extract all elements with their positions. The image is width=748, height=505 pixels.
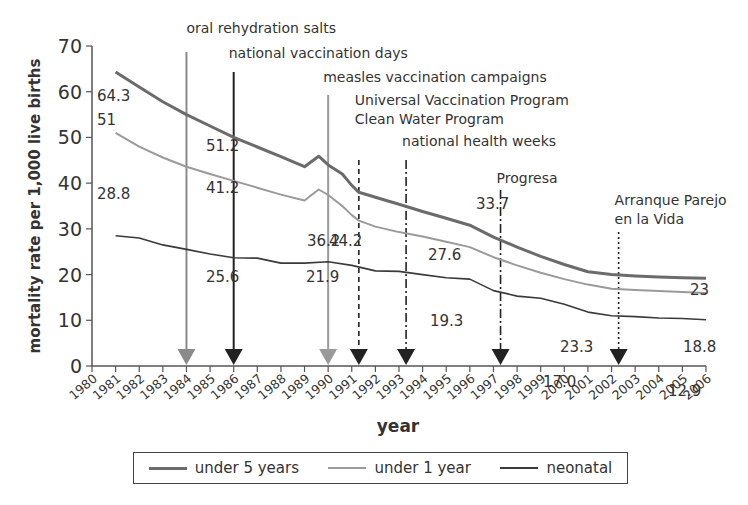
- x-axis-title: year: [377, 416, 420, 436]
- legend-swatch-under5: [149, 467, 187, 470]
- legend-label-neonatal: neonatal: [546, 459, 612, 477]
- y-tick-label: 40: [58, 172, 82, 194]
- y-tick-label: 10: [58, 309, 82, 331]
- y-axis-title: mortality rate per 1,000 live births: [26, 58, 44, 353]
- data-label: 23: [690, 281, 709, 299]
- data-label: 18.8: [683, 338, 716, 356]
- chart-plot-area: 0102030405060701980198119821983198419851…: [0, 0, 748, 505]
- y-tick-label: 20: [58, 264, 82, 286]
- data-label: 51: [97, 111, 116, 129]
- y-axis-label: mortality rate per 1,000 live births: [26, 58, 44, 353]
- annotation-label: Arranque Parejo: [615, 192, 727, 208]
- legend-item-under5: under 5 years: [149, 459, 299, 477]
- data-label: 64.3: [97, 87, 130, 105]
- annotation-label: national vaccination days: [229, 45, 408, 61]
- data-label: 27.6: [428, 246, 461, 264]
- annotation-label: Universal Vaccination Program: [355, 92, 569, 108]
- legend-swatch-neonatal: [500, 467, 538, 469]
- legend-label-under5: under 5 years: [195, 459, 299, 477]
- arrowhead-icon: [397, 349, 415, 365]
- annotation-label: en la Vida: [615, 211, 684, 227]
- arrowhead-icon: [225, 349, 243, 365]
- legend-swatch-under1: [328, 467, 366, 469]
- series-line-neonatal: [116, 236, 706, 320]
- data-label: 28.8: [97, 185, 130, 203]
- data-label: 23.3: [560, 338, 593, 356]
- data-label: 19.3: [430, 312, 463, 330]
- data-label: 41.2: [206, 179, 239, 197]
- data-label: 17.0: [543, 373, 576, 391]
- y-tick-label: 60: [58, 81, 82, 103]
- y-tick-label: 0: [70, 355, 82, 377]
- legend-label-under1: under 1 year: [374, 459, 470, 477]
- arrowhead-icon: [350, 349, 368, 365]
- legend-item-neonatal: neonatal: [500, 459, 612, 477]
- y-tick-label: 70: [58, 35, 82, 57]
- data-label: 36.2: [307, 232, 340, 250]
- annotation-label: oral rehydration salts: [186, 20, 336, 36]
- annotation-label: Progresa: [497, 170, 558, 186]
- annotation-label: Clean Water Program: [355, 111, 504, 127]
- y-tick-label: 50: [58, 126, 82, 148]
- arrowhead-icon: [319, 349, 337, 365]
- annotation-label: national health weeks: [402, 133, 556, 149]
- data-label: 33.7: [476, 195, 509, 213]
- data-label: 51.2: [206, 137, 239, 155]
- data-label: 21.9: [306, 268, 339, 286]
- data-label: 25.6: [206, 268, 239, 286]
- y-tick-label: 30: [58, 218, 82, 240]
- arrowhead-icon: [610, 349, 628, 365]
- data-label: 12.9: [668, 382, 701, 400]
- arrowhead-icon: [492, 349, 510, 365]
- legend: under 5 years under 1 year neonatal: [133, 452, 628, 484]
- legend-item-under1: under 1 year: [328, 459, 470, 477]
- arrowhead-icon: [177, 349, 195, 365]
- annotation-label: measles vaccination campaigns: [323, 69, 547, 85]
